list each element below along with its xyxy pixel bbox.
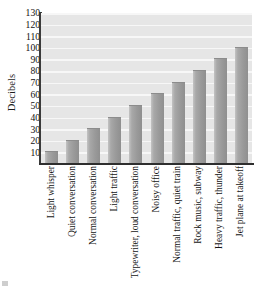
y-axis-tick-label: 60 [20, 90, 40, 100]
bar-series [41, 13, 252, 164]
bar [66, 140, 79, 164]
scan-artifact [2, 281, 8, 286]
x-axis-tick-label: Normal traffic, quiet train [173, 166, 182, 263]
bar [151, 93, 164, 164]
y-axis-tick-label: 40 [20, 113, 40, 123]
plot-area [41, 13, 252, 164]
x-axis-tick-label-slot: Quiet conversation [62, 166, 83, 284]
y-axis-tick-label: 130 [20, 8, 40, 18]
x-axis-tick-label-slot: Jet plane at takeoff [231, 166, 252, 284]
y-axis-tick-label: 10 [20, 148, 40, 158]
bar [129, 105, 142, 164]
x-axis-tick-label-slot: Normal traffic, quiet train [168, 166, 189, 284]
y-axis-tick-label: 50 [20, 101, 40, 111]
y-axis-tick-label: 80 [20, 66, 40, 76]
x-axis-tick-label: Typewriter, loud conversation [131, 166, 140, 278]
bar [108, 117, 121, 164]
bar [235, 47, 248, 164]
y-axis-title-text: Decibels [7, 73, 18, 111]
x-axis-tick-label: Quiet conversation [68, 166, 77, 237]
x-axis-line [39, 163, 254, 165]
y-axis-tick-label: 110 [20, 32, 40, 42]
x-axis-tick-label: Noisy office [152, 166, 161, 212]
y-axis-tick-labels: 102030405060708090100110120130 [20, 9, 40, 165]
y-axis-tick-label: 70 [20, 78, 40, 88]
x-axis-tick-label-slot: Normal conversation [83, 166, 104, 284]
x-axis-tick-label: Normal conversation [89, 166, 98, 245]
y-axis-tick-label: 120 [20, 20, 40, 30]
x-axis-tick-label-slot: Rock music, subway [189, 166, 210, 284]
x-axis-tick-label: Rock music, subway [195, 166, 204, 244]
bar [193, 70, 206, 164]
bar [87, 128, 100, 164]
x-axis-tick-label: Light whisper [47, 166, 56, 218]
x-axis-tick-label-slot: Light whisper [41, 166, 62, 284]
x-axis-tick-labels: Light whisperQuiet conversationNormal co… [41, 166, 252, 286]
y-axis-tick-label: 30 [20, 125, 40, 135]
x-axis-tick-label: Heavy traffic, thunder [216, 166, 225, 249]
bar-chart-figure: Decibels 102030405060708090100110120130 … [0, 0, 263, 293]
x-axis-tick-label-slot: Noisy office [147, 166, 168, 284]
x-axis-tick-label: Jet plane at takeoff [237, 166, 246, 237]
y-axis-tick-label: 90 [20, 55, 40, 65]
bar [214, 58, 227, 164]
x-axis-tick-label-slot: Heavy traffic, thunder [210, 166, 231, 284]
x-axis-tick-label-slot: Light traffic [104, 166, 125, 284]
x-axis-tick-label: Light traffic [110, 166, 119, 211]
bar [172, 82, 185, 164]
y-axis-tick-label: 20 [20, 136, 40, 146]
y-axis-tick-label: 100 [20, 43, 40, 53]
x-axis-tick-label-slot: Typewriter, loud conversation [125, 166, 146, 284]
